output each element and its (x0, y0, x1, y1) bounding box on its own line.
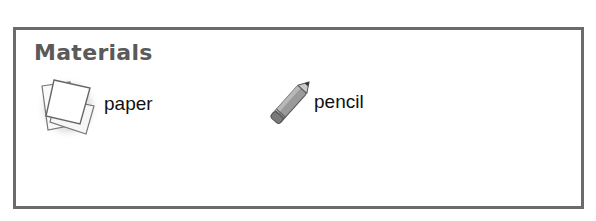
paper-stack-icon (34, 72, 106, 144)
section-title: Materials (34, 40, 153, 65)
material-label: pencil (314, 91, 364, 113)
material-item-paper: paper (34, 72, 153, 144)
pencil-icon (262, 70, 320, 138)
material-item-pencil: pencil (262, 70, 364, 138)
material-label: paper (104, 93, 153, 115)
